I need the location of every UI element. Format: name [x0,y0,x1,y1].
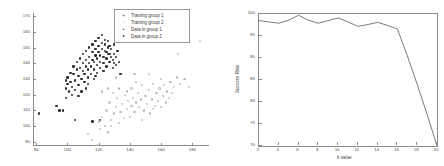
legend-label: Training group 2 [131,21,164,26]
scatter-point [116,50,118,52]
scatter-point [102,70,104,72]
scatter-point [77,75,79,77]
y-tick-mark [259,145,262,146]
x-tick-mark [337,142,338,145]
y-tick-mark [259,35,262,36]
y-tick-label: 70 [241,143,255,147]
scatter-point [148,89,150,91]
y-tick-mark [259,101,262,102]
scatter-point [112,67,114,69]
scatter-point [94,75,96,77]
y-tick-label: 90 [241,55,255,59]
y-tick-label: 100 [241,11,255,15]
y-tick-mark [259,13,262,14]
figure-container: 9010011012013014015016017080100120140160… [0,0,444,166]
y-axis-title: Success Rate [236,65,241,93]
scatter-point [68,90,70,92]
y-tick-mark [259,79,262,80]
line-plot-area [258,13,438,147]
y-tick-mark [33,32,36,33]
scatter-point [154,105,156,107]
y-tick-label: 100 [15,124,30,128]
x-tick-mark [36,143,37,146]
success-rate-curve [259,14,437,146]
scatter-point [115,64,117,66]
scatter-point [69,72,71,74]
scatter-point [183,78,185,80]
scatter-point [65,97,67,99]
scatter-point [118,61,120,63]
x-tick-mark [192,143,193,146]
scatter-point [102,56,104,58]
x-tick-label: 100 [64,148,71,152]
y-tick-label: 150 [15,45,30,49]
y-tick-label: 140 [15,61,30,65]
x-tick-label: 16 [394,148,399,152]
y-tick-label: 170 [15,14,30,18]
scatter-point [62,109,64,111]
legend-marker-filled-circle-icon: • [118,28,129,33]
scatter-point [168,97,170,99]
scatter-point [101,90,103,92]
scatter-point [107,87,109,89]
scatter-point [108,101,110,103]
scatter-point [66,76,68,78]
scatter-point [132,97,134,99]
scatter-point [76,61,78,63]
legend-marker-dot-icon: · [118,21,129,26]
line-panel: 7075808590951002468101214161820 k value … [222,0,444,166]
x-tick-label: 140 [126,148,133,152]
x-tick-label: 180 [189,148,196,152]
scatter-point [133,111,135,113]
scatter-point [97,45,99,47]
scatter-point [130,87,132,89]
y-tick-label: 85 [241,77,255,81]
scatter-point [140,98,142,100]
scatter-point [80,78,82,80]
scatter-point [179,83,181,85]
x-tick-label: 8 [316,148,318,152]
scatter-point [173,86,175,88]
x-tick-mark [130,143,131,146]
scatter-point [107,131,109,133]
scatter-point [165,101,167,103]
scatter-point [98,120,100,122]
scatter-point [93,68,95,70]
x-tick-mark [161,143,162,146]
x-tick-label: 6 [296,148,298,152]
x-tick-mark [67,143,68,146]
x-tick-label: 20 [434,148,439,152]
x-tick-label: 2 [257,148,259,152]
scatter-point [101,116,103,118]
x-tick-label: 160 [157,148,164,152]
legend-item: + Training group 1 [118,13,187,20]
scatter-point [155,92,157,94]
scatter-point [91,120,93,122]
scatter-point [79,57,81,59]
y-tick-mark [33,95,36,96]
x-tick-mark [436,142,437,145]
y-tick-label: 90 [15,140,30,144]
x-tick-label: 18 [414,148,419,152]
y-tick-label: 95 [241,33,255,37]
scatter-point [158,87,160,89]
legend-item: · Training group 2 [118,20,187,27]
y-tick-label: 80 [241,99,255,103]
x-tick-mark [416,142,417,145]
y-tick-mark [33,79,36,80]
scatter-point [105,109,107,111]
scatter-point [76,68,78,70]
scatter-point [119,111,121,113]
scatter-point [93,61,95,63]
legend-box: + Training group 1 · Training group 2 • … [114,9,190,43]
scatter-point [72,65,74,67]
scatter-point [91,43,93,45]
legend-label: Training group 1 [131,14,164,19]
x-tick-label: 120 [95,148,102,152]
scatter-point [115,76,117,78]
x-axis-title: k value [337,156,352,161]
scatter-point [105,65,107,67]
scatter-point [104,43,106,45]
scatter-point [130,105,132,107]
legend-item: ∘ Data in group 2 [118,34,187,41]
